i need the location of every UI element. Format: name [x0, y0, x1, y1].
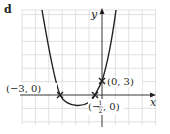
svg-text:2: 2	[99, 107, 103, 114]
graph-canvas: x y (−3, 0) (0, 3) (− 1 2 , 0)	[0, 0, 170, 134]
x-axis-label: x	[150, 96, 157, 109]
point-label-root-right: (− 1 2 , 0)	[88, 99, 120, 114]
y-axis-label: y	[90, 8, 98, 21]
svg-text:, 0): , 0)	[103, 101, 120, 112]
part-label: d	[4, 3, 12, 16]
y-axis-arrow-icon	[100, 8, 105, 14]
point-label-root-left: (−3, 0)	[6, 83, 41, 94]
svg-text:1: 1	[99, 99, 103, 106]
graph-figure: d	[0, 0, 170, 134]
point-label-y-intercept: (0, 3)	[107, 76, 134, 87]
